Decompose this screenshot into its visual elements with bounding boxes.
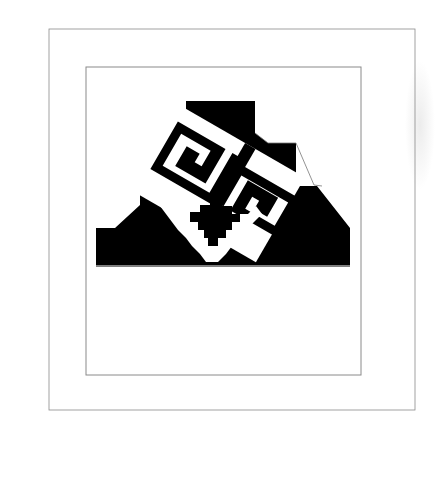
stepped-pyramid [96,101,350,266]
artwork-canvas [0,0,447,485]
